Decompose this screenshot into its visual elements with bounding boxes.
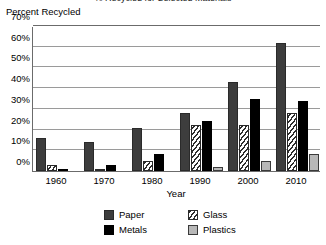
bar-metals [154, 154, 164, 171]
x-axis-title: Year [32, 188, 320, 199]
bar-paper [84, 142, 94, 171]
plastics-swatch [188, 225, 198, 235]
bar-group [129, 27, 177, 171]
legend-item-label: Glass [203, 209, 227, 220]
y-tick-label: 70% [0, 12, 30, 22]
bar-group [273, 27, 321, 171]
legend-item-label: Paper [119, 209, 144, 220]
bar-metals [298, 101, 308, 171]
bar-paper [228, 82, 238, 171]
bar-group [177, 27, 225, 171]
plot-area [32, 27, 320, 172]
bar-group [33, 27, 81, 171]
bar-paper [180, 113, 190, 171]
bar-glass [191, 125, 201, 171]
bar-paper [36, 138, 46, 171]
bar-metals [58, 169, 68, 171]
bar-group [225, 27, 273, 171]
legend-item-label: Metals [119, 224, 147, 235]
y-axis-tick-labels: 0%10%20%30%40%50%60%70% [0, 27, 30, 172]
metals-swatch [104, 225, 114, 235]
bar-plastics [261, 161, 271, 171]
bar-glass [47, 165, 57, 171]
chart-title: % Recycled for Selected Materials [0, 0, 326, 4]
legend-item-label: Plastics [203, 224, 236, 235]
bar-glass [143, 161, 153, 171]
bar-glass [95, 169, 105, 171]
x-tick-label: 2010 [272, 175, 320, 187]
y-tick-label: 40% [0, 74, 30, 84]
x-tick-label: 1980 [128, 175, 176, 187]
x-tick-label: 1960 [32, 175, 80, 187]
legend-item-metals: Metals [104, 224, 188, 235]
legend-item-glass: Glass [188, 209, 274, 220]
bar-plastics [213, 167, 223, 171]
bar-metals [106, 165, 116, 171]
bar-metals [250, 99, 260, 172]
x-tick-label: 1990 [176, 175, 224, 187]
legend-item-paper: Paper [104, 209, 188, 220]
y-tick-label: 30% [0, 95, 30, 105]
y-tick-label: 60% [0, 33, 30, 43]
bar-group [81, 27, 129, 171]
y-tick-label: 20% [0, 116, 30, 126]
y-tick-label: 50% [0, 53, 30, 63]
bar-glass [239, 125, 249, 171]
legend-item-plastics: Plastics [188, 224, 274, 235]
y-tick-label: 0% [0, 157, 30, 167]
x-tick-label: 1970 [80, 175, 128, 187]
bar-paper [132, 128, 142, 172]
glass-swatch [188, 210, 198, 220]
chart-legend: PaperGlassMetalsPlastics [104, 207, 274, 237]
x-axis-tick-labels: 196019701980199020002010 [32, 175, 320, 189]
paper-swatch [104, 210, 114, 220]
y-tick-label: 10% [0, 136, 30, 146]
bar-glass [287, 113, 297, 171]
bar-plastics [309, 154, 319, 171]
bar-metals [202, 121, 212, 171]
gridline [33, 25, 320, 26]
bar-paper [276, 43, 286, 171]
x-tick-label: 2000 [224, 175, 272, 187]
